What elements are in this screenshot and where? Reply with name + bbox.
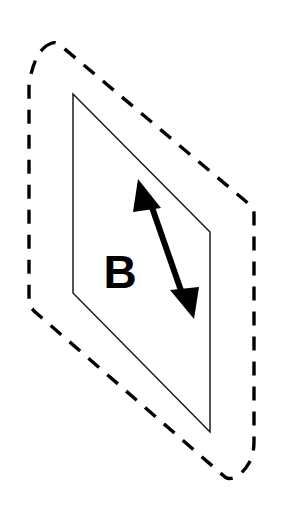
plane-label-b: B: [103, 246, 136, 298]
diagram-svg: B: [0, 0, 285, 518]
figure-canvas: B: [0, 0, 285, 518]
